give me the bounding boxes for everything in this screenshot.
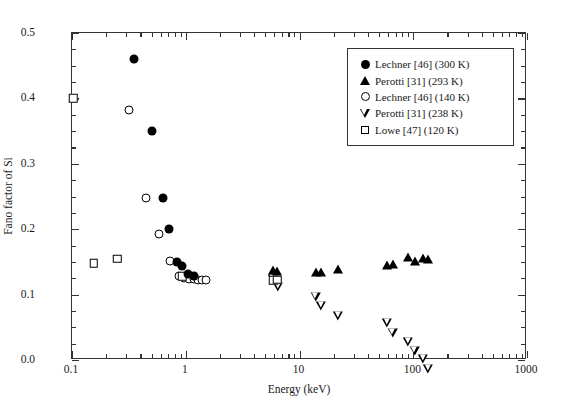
x-tick-label: 1000 bbox=[515, 363, 538, 375]
data-point bbox=[129, 55, 138, 64]
data-point bbox=[388, 328, 398, 337]
y-tick-minor bbox=[72, 115, 76, 116]
data-point bbox=[154, 230, 163, 239]
y-tick-minor bbox=[72, 82, 76, 83]
y-tick-minor bbox=[521, 344, 525, 345]
legend-item: Lowe [47] (120 K) bbox=[355, 122, 505, 138]
y-tick-minor bbox=[521, 327, 525, 328]
legend-item: Lechner [46] (140 K) bbox=[355, 89, 505, 105]
x-tick-minor bbox=[282, 354, 283, 358]
y-tick-major bbox=[518, 295, 525, 296]
x-tick-major bbox=[72, 33, 73, 40]
x-tick-minor bbox=[334, 354, 335, 358]
x-tick-minor bbox=[447, 354, 448, 358]
y-tick-label: 0.1 bbox=[21, 288, 35, 300]
x-tick-minor bbox=[379, 354, 380, 358]
x-tick-minor bbox=[354, 33, 355, 37]
x-tick-minor bbox=[493, 354, 494, 358]
filled-triangle-icon bbox=[355, 76, 375, 85]
y-tick-minor bbox=[72, 311, 76, 312]
x-tick-minor bbox=[161, 33, 162, 37]
x-tick-minor bbox=[254, 33, 255, 37]
x-tick-major bbox=[527, 351, 528, 358]
y-tick-major bbox=[72, 164, 79, 165]
data-point bbox=[311, 292, 321, 301]
x-tick-minor bbox=[396, 33, 397, 37]
y-tick-minor bbox=[72, 49, 76, 50]
y-tick-major bbox=[72, 295, 79, 296]
y-tick-minor bbox=[521, 311, 525, 312]
data-point bbox=[125, 106, 134, 115]
x-tick-minor bbox=[175, 33, 176, 37]
y-tick-minor bbox=[72, 246, 76, 247]
data-point bbox=[316, 268, 326, 277]
data-point bbox=[403, 337, 413, 346]
legend-item: Perotti [31] (293 K) bbox=[355, 72, 505, 88]
y-tick-minor bbox=[72, 147, 76, 148]
y-tick-minor bbox=[521, 131, 525, 132]
y-tick-label: 0.4 bbox=[21, 91, 35, 103]
open-down-triangle-icon bbox=[355, 109, 375, 118]
data-point bbox=[388, 259, 398, 268]
data-point bbox=[113, 254, 122, 263]
y-tick-minor bbox=[521, 66, 525, 67]
x-tick-major bbox=[300, 33, 301, 40]
x-tick-minor bbox=[168, 354, 169, 358]
x-tick-minor bbox=[140, 33, 141, 37]
x-tick-minor bbox=[168, 33, 169, 37]
open-square-icon bbox=[355, 126, 375, 135]
data-point bbox=[333, 265, 343, 274]
x-tick-minor bbox=[388, 33, 389, 37]
x-tick-minor bbox=[502, 33, 503, 37]
y-tick-minor bbox=[521, 246, 525, 247]
x-tick-major bbox=[527, 33, 528, 40]
open-circle-icon bbox=[355, 92, 375, 101]
data-point bbox=[69, 94, 78, 103]
y-tick-label: 0.3 bbox=[21, 157, 35, 169]
x-tick-minor bbox=[388, 354, 389, 358]
x-tick-minor bbox=[294, 33, 295, 37]
y-tick-minor bbox=[521, 115, 525, 116]
x-tick-minor bbox=[379, 33, 380, 37]
x-tick-minor bbox=[106, 33, 107, 37]
x-tick-minor bbox=[220, 354, 221, 358]
x-tick-minor bbox=[126, 33, 127, 37]
y-tick-label: 0.2 bbox=[21, 222, 35, 234]
data-point bbox=[333, 312, 343, 321]
y-tick-minor bbox=[72, 327, 76, 328]
x-tick-minor bbox=[354, 354, 355, 358]
y-tick-minor bbox=[521, 49, 525, 50]
x-tick-minor bbox=[181, 354, 182, 358]
x-tick-label: 1 bbox=[182, 363, 188, 375]
x-tick-label: 100 bbox=[404, 363, 421, 375]
x-tick-minor bbox=[447, 33, 448, 37]
x-tick-minor bbox=[240, 33, 241, 37]
x-tick-minor bbox=[509, 354, 510, 358]
x-tick-minor bbox=[288, 354, 289, 358]
data-point bbox=[164, 225, 173, 234]
legend-item: Lechner [46] (300 K) bbox=[355, 56, 505, 72]
y-tick-minor bbox=[72, 344, 76, 345]
y-tick-minor bbox=[72, 197, 76, 198]
x-tick-label: 10 bbox=[293, 363, 305, 375]
legend-label: Perotti [31] (293 K) bbox=[375, 75, 463, 87]
legend-label: Lechner [46] (300 K) bbox=[375, 58, 469, 70]
data-point bbox=[89, 259, 98, 268]
x-tick-major bbox=[186, 351, 187, 358]
y-axis-title: Fano factor of Si bbox=[2, 157, 14, 235]
x-tick-major bbox=[413, 33, 414, 40]
x-tick-major bbox=[186, 33, 187, 40]
legend-rows: Lechner [46] (300 K)Perotti [31] (293 K)… bbox=[355, 56, 505, 138]
x-tick-major bbox=[72, 351, 73, 358]
x-tick-minor bbox=[126, 354, 127, 358]
filled-circle-icon bbox=[355, 60, 375, 69]
y-tick-major bbox=[518, 164, 525, 165]
figure: Fano factor of Si Energy (keV) 0.00.10.2… bbox=[0, 0, 568, 420]
x-tick-minor bbox=[368, 33, 369, 37]
x-tick-minor bbox=[152, 354, 153, 358]
x-tick-minor bbox=[516, 354, 517, 358]
y-tick-minor bbox=[72, 229, 76, 230]
x-tick-minor bbox=[502, 354, 503, 358]
x-tick-minor bbox=[493, 33, 494, 37]
x-tick-minor bbox=[294, 354, 295, 358]
